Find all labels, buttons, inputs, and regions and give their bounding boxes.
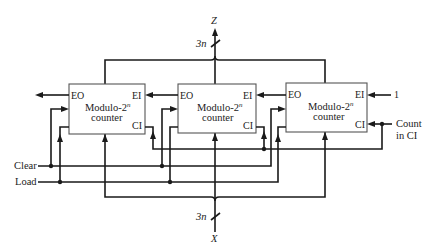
counter-1: EO EI CI Modulo-2n counter [69, 84, 145, 134]
z-bus-label: Z [211, 15, 217, 26]
ei-port-label: EI [132, 90, 141, 101]
x-bus-width-label: 3n [195, 211, 207, 222]
ci-port-label: CI [243, 120, 253, 131]
count-in-label-line2: in CI [396, 130, 418, 141]
ei-port-label: EI [355, 89, 364, 100]
clear-3-arrow-icon [278, 106, 286, 112]
counter-superscript: n [350, 100, 354, 108]
clear-2-arrow-icon [170, 106, 178, 112]
counter-3: EO EI CI Modulo-2n counter [286, 83, 367, 132]
eo-port-label: EO [71, 90, 84, 101]
ei-2-arrow-icon [256, 92, 264, 98]
counter-subtitle: counter [313, 111, 345, 122]
eo-port-label: EO [180, 90, 193, 101]
x-arrow-2-icon [212, 133, 218, 141]
clear-label: Clear [14, 160, 37, 171]
counter-superscript: n [239, 101, 243, 109]
ei-1-arrow-icon [145, 92, 153, 98]
eo-out-arrow-icon [35, 92, 43, 98]
load-1-arrow-icon [57, 134, 63, 142]
eo-port-label: EO [288, 89, 301, 100]
ci-port-label: CI [132, 120, 142, 131]
output-bus: 3n Z [105, 15, 325, 84]
load-3-arrow-icon [275, 134, 281, 142]
ei-port-label: EI [243, 90, 252, 101]
count-in-label-line1: Count [396, 118, 422, 129]
ci-3-arrow-icon [367, 121, 375, 127]
ei-constant-label: 1 [394, 89, 399, 100]
counter-subtitle: counter [91, 112, 123, 123]
ci-2-arrow-icon [261, 131, 267, 139]
ei-3-arrow-icon [367, 92, 375, 98]
clear-1-arrow-icon [61, 106, 69, 112]
z-arrow-icon [212, 28, 218, 36]
x-arrow-1-icon [102, 134, 108, 142]
ci-1-arrow-icon [150, 131, 156, 139]
counter-superscript: n [127, 101, 131, 109]
x-bus-label: X [210, 233, 218, 244]
ci-port-label: CI [355, 119, 365, 130]
z-bus-width-label: 3n [195, 38, 207, 49]
load-label: Load [15, 176, 37, 187]
load-line: Load [15, 127, 286, 187]
x-arrow-3-icon [322, 132, 328, 140]
counter-subtitle: counter [202, 112, 234, 123]
counter-2: EO EI CI Modulo-2n counter [178, 84, 256, 133]
counter-cascade-diagram: 3n Z 3n X EO EI CI Modulo-2n counter EO … [0, 0, 433, 248]
